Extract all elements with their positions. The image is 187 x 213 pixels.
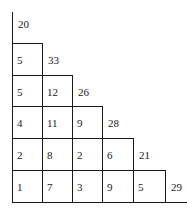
cell-divider-line (42, 75, 43, 107)
cell-value: 1 (17, 181, 23, 193)
cell-divider-line (72, 138, 73, 171)
row-top-line (12, 43, 43, 44)
cell-value: 7 (47, 181, 53, 193)
cell-divider-line (102, 138, 103, 171)
cell-divider-line (102, 106, 103, 139)
row-total: 33 (48, 54, 59, 66)
baseline-line (12, 202, 187, 203)
cell-value: 11 (47, 117, 58, 129)
row-top-line (12, 170, 166, 171)
cell-divider-line (133, 170, 134, 203)
cell-value: 5 (138, 181, 144, 193)
cell-divider-line (72, 75, 73, 107)
cell-divider-line (133, 138, 134, 171)
cell-value: 2 (17, 149, 23, 161)
cell-divider-line (72, 106, 73, 139)
cell-value: 5 (17, 86, 23, 98)
cell-value: 4 (17, 117, 23, 129)
row-total: 28 (108, 117, 119, 129)
cell-divider-line (42, 170, 43, 203)
cell-value: 8 (47, 149, 53, 161)
row-total: 20 (18, 18, 29, 30)
cell-divider-line (72, 170, 73, 203)
cell-value: 3 (77, 181, 83, 193)
row-total: 21 (139, 149, 150, 161)
cell-value: 5 (17, 54, 23, 66)
cell-divider-line (42, 138, 43, 171)
row-top-line (12, 106, 103, 107)
left-axis-line (12, 12, 13, 203)
cell-divider-line (42, 43, 43, 76)
cell-value: 12 (47, 86, 58, 98)
cell-value: 6 (107, 149, 113, 161)
cell-value: 9 (77, 117, 83, 129)
cell-value: 2 (77, 149, 83, 161)
cell-divider-line (42, 106, 43, 139)
row-total: 29 (171, 181, 182, 193)
row-total: 26 (78, 86, 89, 98)
row-top-line (12, 138, 134, 139)
cell-divider-line (102, 170, 103, 203)
cell-value: 9 (107, 181, 113, 193)
cell-divider-line (165, 170, 166, 203)
